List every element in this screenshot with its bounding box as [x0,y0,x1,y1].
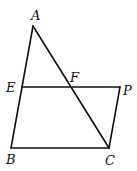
label-f: F [69,70,80,85]
geometry-diagram: A E F P B C [0,0,137,171]
label-e: E [5,80,16,95]
label-c: C [105,153,115,168]
label-p: P [122,83,132,98]
label-a: A [30,8,40,23]
label-b: B [5,152,16,167]
segment-pc [109,87,120,148]
